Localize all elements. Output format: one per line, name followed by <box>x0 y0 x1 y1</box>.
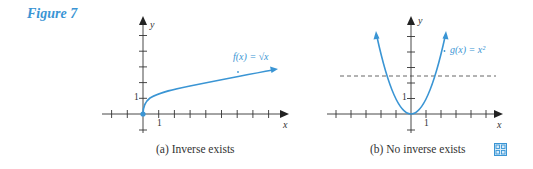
panel-a-y-arrow-icon <box>139 16 147 25</box>
panel-b-curve-right-arrow-icon <box>443 31 449 40</box>
panel-b-y-axis-label: y <box>418 15 422 26</box>
grid-icon[interactable] <box>494 142 507 155</box>
panel-a-caption: (a) Inverse exists <box>156 143 235 155</box>
panel-a-y-axis-label: y <box>150 19 154 30</box>
panel-a-y-tick-label: 1 <box>134 92 139 102</box>
panel-a-sqrt-curve <box>143 70 273 114</box>
panel-a-origin-point <box>140 111 145 116</box>
panel-b-curve-left-arrow-icon <box>374 31 380 40</box>
panel-a-leader-dot <box>237 71 239 73</box>
panel-a-x-tick-label: 1 <box>157 118 162 128</box>
panel-b-y-arrow-icon <box>407 16 415 25</box>
panel-a-graph <box>102 16 289 133</box>
panel-b-caption: (b) No inverse exists <box>370 143 466 155</box>
panel-a-x-axis-label: x <box>283 119 287 130</box>
panel-a-curve-arrow-icon <box>270 67 278 74</box>
panel-b-x-axis-label: x <box>497 119 501 130</box>
panel-b-x-arrow-icon <box>494 110 503 118</box>
panel-b-graph <box>327 16 503 133</box>
panel-b-leader-dot <box>444 50 446 52</box>
panel-b-y-tick-label: 1 <box>402 92 407 102</box>
panel-a-x-arrow-icon <box>280 110 289 118</box>
panel-b-function-label: g(x) = x² <box>450 44 485 55</box>
panel-a-function-label: f(x) = √x <box>233 51 269 62</box>
panel-b-x-tick-label: 1 <box>424 118 429 128</box>
